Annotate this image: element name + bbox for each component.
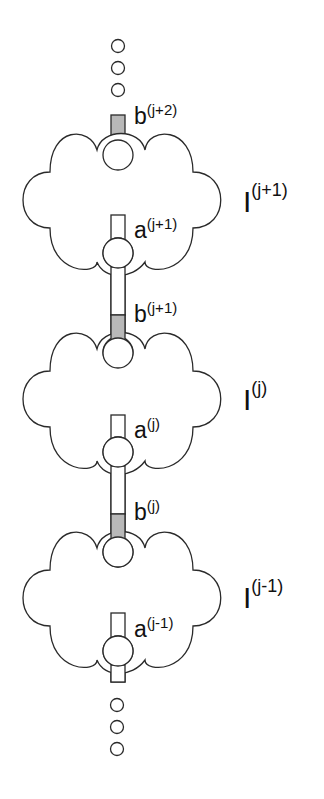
dot-icon xyxy=(111,743,124,756)
b-port-shaded xyxy=(111,315,125,341)
port-circle-top xyxy=(103,140,133,170)
rod-middle-front xyxy=(111,466,125,514)
dot-icon xyxy=(112,62,125,75)
dot-icon xyxy=(111,721,124,734)
dot-icon xyxy=(112,40,125,53)
port-circle-bottom xyxy=(103,636,133,666)
port-circle-bottom xyxy=(103,437,133,467)
b-port-label: b(j) xyxy=(134,497,160,525)
b-port-label: b(j+1) xyxy=(134,299,177,327)
dot-icon xyxy=(111,699,124,712)
port-circle-top xyxy=(103,537,133,567)
ellipsis-top xyxy=(112,40,125,97)
rod-bottom-front xyxy=(111,665,125,682)
b-port-label: b(j+2) xyxy=(134,101,177,129)
b-port-shaded xyxy=(111,514,125,540)
ellipsis-bottom xyxy=(111,699,124,756)
chain-diagram: b(j+2) a(j+1) I(j+1) b(j+1) a(j) I(j) b(… xyxy=(0,0,324,799)
region-label: I(j) xyxy=(243,378,267,416)
dot-icon xyxy=(112,84,125,97)
rod-upper-front xyxy=(111,267,125,315)
region-label: I(j+1) xyxy=(243,180,288,218)
region-label: I(j-1) xyxy=(243,576,283,614)
port-circle-bottom xyxy=(103,238,133,268)
port-circle-top xyxy=(103,338,133,368)
a-port xyxy=(111,215,125,241)
